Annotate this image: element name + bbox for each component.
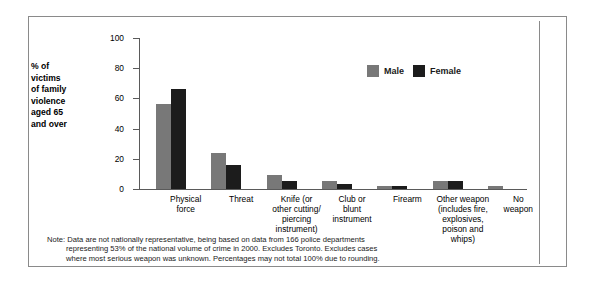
bar-group: Other weapon(includes fire,explosives,po… xyxy=(433,38,463,189)
x-axis-category-line: blunt xyxy=(309,204,395,214)
bar-male xyxy=(156,104,171,189)
y-axis-line xyxy=(139,38,140,190)
note-line-2: representing 53% of the national volume … xyxy=(47,244,517,253)
bar-group: Physicalforce xyxy=(156,38,186,189)
y-tick: 60 xyxy=(133,98,139,99)
y-tick-label: 20 xyxy=(115,154,124,164)
y-tick: 40 xyxy=(133,129,139,130)
bar-female xyxy=(448,181,463,189)
y-axis-label: % of victims of family violence aged 65 … xyxy=(23,61,101,131)
x-axis-category-line: instrument xyxy=(309,214,395,224)
y-tick: 0 xyxy=(133,189,139,190)
y-tick-label: 100 xyxy=(110,33,124,43)
y-axis-label-line-3: of family xyxy=(31,84,101,96)
x-axis-line xyxy=(139,189,527,190)
bar-group: Threat xyxy=(211,38,241,189)
y-axis-label-line-6: and over xyxy=(31,119,101,131)
x-axis-category-line: force xyxy=(143,204,229,214)
y-tick: 80 xyxy=(133,68,139,69)
bar-female xyxy=(282,181,297,189)
bar-female xyxy=(337,184,352,189)
bar-group: Club orbluntinstrument xyxy=(322,38,352,189)
y-axis-label-line-5: aged 65 xyxy=(31,107,101,119)
figure-caption xyxy=(28,276,328,285)
x-axis-category-line: poison and xyxy=(420,224,506,234)
note-line-3: where most serious weapon was unknown. P… xyxy=(47,254,517,263)
y-axis-label-line-2: victims xyxy=(31,73,101,85)
bar-group: Knife (orother cutting/piercinginstrumen… xyxy=(267,38,297,189)
chart-note: Note: Data are not nationally representa… xyxy=(47,235,517,263)
source-text: Source: Statistics Canada. 2000. Centre … xyxy=(543,17,558,23)
y-axis-label-line-1: % of xyxy=(31,61,101,73)
y-tick: 20 xyxy=(133,159,139,160)
y-axis-label-line-4: violence xyxy=(31,96,101,108)
bar-male xyxy=(377,186,392,189)
x-axis-category-line: explosives, xyxy=(420,214,506,224)
y-tick: 100 xyxy=(133,38,139,39)
chart-figure: % of victims of family violence aged 65 … xyxy=(28,16,567,267)
bar-male xyxy=(433,181,448,189)
bar-female xyxy=(226,165,241,189)
bar-male xyxy=(322,181,337,189)
y-tick-label: 80 xyxy=(115,63,124,73)
x-axis-category-line: instrument) xyxy=(254,224,340,234)
y-tick-label: 60 xyxy=(115,93,124,103)
plot-area: 020406080100 PhysicalforceThreatKnife (o… xyxy=(139,38,527,190)
y-tick-label: 0 xyxy=(119,184,124,194)
y-tick-label: 40 xyxy=(115,124,124,134)
bar-female xyxy=(171,89,186,189)
bar-group: Noweapon xyxy=(488,38,518,189)
bar-male xyxy=(488,186,503,189)
source-container: Source: Statistics Canada. 2000. Centre … xyxy=(540,17,560,264)
bar-male xyxy=(267,175,282,189)
bar-male xyxy=(211,153,226,189)
bar-female xyxy=(392,186,407,189)
note-line-1: Note: Data are not nationally representa… xyxy=(47,235,365,244)
bar-group: Firearm xyxy=(377,38,407,189)
